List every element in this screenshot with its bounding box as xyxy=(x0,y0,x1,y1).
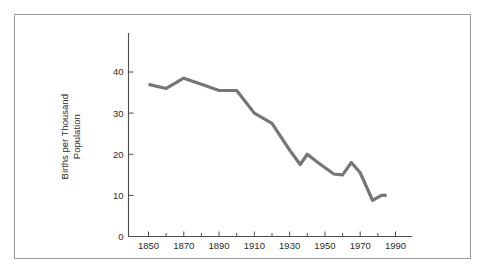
x-tick-label: 1970 xyxy=(350,240,371,251)
y-axis-ticks: 010203040 xyxy=(113,66,134,242)
y-tick-label: 20 xyxy=(113,149,124,160)
y-tick-label: 10 xyxy=(113,190,124,201)
y-axis-title-group: Births per ThousandPopulation xyxy=(59,94,82,179)
x-tick-label: 1930 xyxy=(279,240,300,251)
x-tick-label: 1910 xyxy=(244,240,265,251)
figure-container: 18501870189019101930195019701990 0102030… xyxy=(0,0,488,279)
x-axis-ticks: 18501870189019101930195019701990 xyxy=(138,232,406,251)
data-series xyxy=(149,78,387,200)
x-tick-label: 1850 xyxy=(138,240,159,251)
line-chart: 18501870189019101930195019701990 0102030… xyxy=(0,0,488,279)
y-axis-title-line2: Population xyxy=(71,114,82,159)
y-tick-label: 30 xyxy=(113,108,124,119)
y-tick-label: 40 xyxy=(113,66,124,77)
x-tick-label: 1890 xyxy=(209,240,230,251)
axes xyxy=(129,33,413,237)
x-tick-label: 1950 xyxy=(314,240,335,251)
y-axis-title: Births per ThousandPopulation xyxy=(59,94,82,179)
y-axis-title-line1: Births per Thousand xyxy=(59,94,70,179)
x-tick-label: 1990 xyxy=(385,240,406,251)
x-tick-label: 1870 xyxy=(173,240,194,251)
y-tick-label: 0 xyxy=(118,231,123,242)
series-line-births xyxy=(149,78,387,200)
